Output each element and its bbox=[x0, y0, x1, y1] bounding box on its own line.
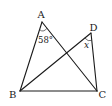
point-label-c: C bbox=[99, 89, 107, 100]
point-label-a: A bbox=[37, 9, 46, 20]
angle-label-a: 58° bbox=[38, 35, 53, 45]
geometry-figure: A D B C 58° x bbox=[0, 0, 112, 106]
point-label-b: B bbox=[9, 89, 16, 100]
segment-bd bbox=[20, 33, 91, 91]
point-label-d: D bbox=[90, 22, 98, 33]
angle-label-d: x bbox=[84, 40, 89, 50]
segment-ab bbox=[20, 22, 42, 91]
segment-dc bbox=[91, 33, 97, 91]
angle-arc-a bbox=[40, 28, 47, 31]
